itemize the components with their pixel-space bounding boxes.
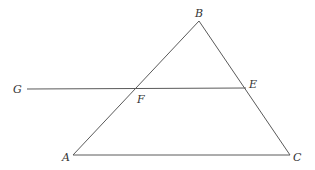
point-label-a: A [61,151,70,164]
geometry-diagram: B G E F A C [0,0,315,170]
point-label-b: B [194,7,203,20]
point-label-e: E [248,78,257,91]
point-label-c: C [293,151,302,164]
point-label-g: G [13,83,22,96]
segment-ge [27,88,246,89]
point-label-f: F [136,93,145,106]
